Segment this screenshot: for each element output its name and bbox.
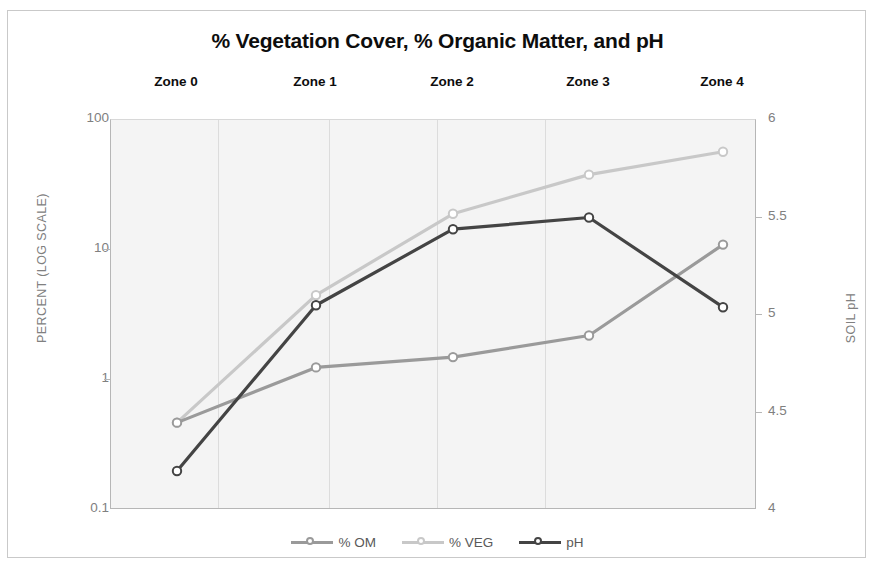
legend-swatch-veg	[402, 541, 444, 544]
y-axis-tick-100: 100	[39, 110, 109, 125]
line-veg	[177, 152, 723, 423]
legend-swatch-ph	[519, 541, 561, 544]
data-point[interactable]	[449, 210, 457, 218]
legend-item-ph[interactable]: pH	[519, 535, 583, 550]
y-axis-tick-10: 10	[39, 240, 109, 255]
zone-label-1: Zone 1	[265, 74, 365, 89]
legend-label-ph: pH	[566, 535, 583, 550]
data-point[interactable]	[312, 301, 320, 309]
data-point[interactable]	[585, 170, 593, 178]
y-axis-label: PERCENT (LOG SCALE)	[35, 158, 49, 378]
legend-swatch-om	[291, 541, 333, 544]
page-title: % Vegetation Cover, % Organic Matter, an…	[8, 29, 867, 53]
data-point[interactable]	[173, 418, 181, 426]
y2-axis-tick-5: 5	[768, 305, 828, 320]
data-point[interactable]	[312, 363, 320, 371]
legend-label-veg: % VEG	[449, 535, 493, 550]
data-point[interactable]	[449, 225, 457, 233]
data-point[interactable]	[585, 213, 593, 221]
chart-frame: % Vegetation Cover, % Organic Matter, an…	[7, 10, 866, 558]
zone-label-2: Zone 2	[402, 74, 502, 89]
y2-axis-label: SOIL pH	[844, 258, 858, 378]
legend-label-om: % OM	[338, 535, 376, 550]
line-ph	[177, 218, 723, 472]
y2-axis-tick-4.5: 4.5	[768, 403, 828, 418]
data-point[interactable]	[719, 240, 727, 248]
data-point[interactable]	[449, 353, 457, 361]
legend: % OM % VEG pH	[8, 535, 867, 550]
data-point[interactable]	[173, 467, 181, 475]
y2-axis-tick-5.5: 5.5	[768, 208, 828, 223]
zone-label-0: Zone 0	[126, 74, 226, 89]
data-point[interactable]	[585, 331, 593, 339]
series-lines	[111, 120, 757, 510]
legend-item-veg[interactable]: % VEG	[402, 535, 493, 550]
data-point[interactable]	[719, 303, 727, 311]
line-om	[177, 245, 723, 423]
zone-label-4: Zone 4	[672, 74, 772, 89]
plot-area	[110, 119, 756, 509]
data-point[interactable]	[719, 148, 727, 156]
legend-item-om[interactable]: % OM	[291, 535, 376, 550]
y2-axis-tick-6: 6	[768, 110, 828, 125]
y-axis-tick-1: 1	[39, 370, 109, 385]
zone-label-3: Zone 3	[538, 74, 638, 89]
y2-axis-tick-4: 4	[768, 500, 828, 515]
data-point[interactable]	[312, 291, 320, 299]
y-axis-tick-0.1: 0.1	[39, 500, 109, 515]
